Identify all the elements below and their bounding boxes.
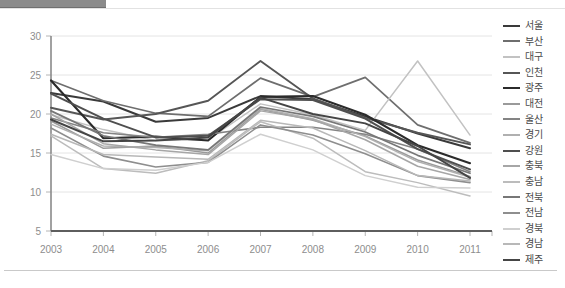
legend-item-label: 대전 — [525, 96, 543, 112]
legend-swatch-icon — [503, 25, 520, 27]
legend-swatch-icon — [503, 150, 520, 152]
legend-item-제주[interactable]: 제주 — [503, 252, 563, 268]
legend-item-label: 인천 — [525, 65, 543, 81]
legend-item-label: 경기 — [525, 127, 543, 143]
legend-item-대전[interactable]: 대전 — [503, 96, 563, 112]
legend-item-label: 충북 — [525, 158, 543, 174]
legend-item-label: 강원 — [525, 143, 543, 159]
x-axis-tick-labels: 200320042005200620072008200920102011 — [40, 231, 492, 255]
legend-swatch-icon — [503, 212, 520, 214]
series-line-대구 — [51, 61, 470, 141]
top-divider — [0, 8, 565, 9]
legend-item-충남[interactable]: 충남 — [503, 174, 563, 190]
legend-item-label: 서울 — [525, 18, 543, 34]
chart-page: 51015202530 2003200420052006200720082009… — [0, 0, 565, 288]
x-tick-label: 2009 — [354, 244, 377, 255]
legend-item-강원[interactable]: 강원 — [503, 143, 563, 159]
x-tick-label: 2008 — [302, 244, 325, 255]
y-axis-tick-labels: 51015202530 — [30, 31, 51, 237]
legend-swatch-icon — [503, 134, 520, 136]
y-tick-label: 5 — [35, 226, 41, 237]
legend-item-인천[interactable]: 인천 — [503, 65, 563, 81]
y-tick-label: 30 — [30, 31, 42, 42]
legend-item-label: 울산 — [525, 112, 543, 128]
legend-item-경북[interactable]: 경북 — [503, 221, 563, 237]
x-tick-label: 2007 — [249, 244, 272, 255]
legend-swatch-icon — [503, 165, 520, 167]
chart-canvas: 51015202530 2003200420052006200720082009… — [0, 10, 497, 260]
legend-swatch-icon — [503, 118, 520, 120]
legend-swatch-icon — [503, 40, 520, 42]
legend-item-label: 제주 — [525, 252, 543, 268]
legend-item-울산[interactable]: 울산 — [503, 112, 563, 128]
legend-item-대구[interactable]: 대구 — [503, 49, 563, 65]
y-tick-label: 25 — [30, 70, 42, 81]
y-tick-label: 20 — [30, 109, 42, 120]
legend-item-label: 경남 — [525, 236, 543, 252]
line-chart: 51015202530 2003200420052006200720082009… — [0, 10, 497, 260]
legend-swatch-icon — [503, 243, 520, 245]
legend-item-label: 대구 — [525, 49, 543, 65]
x-tick-label: 2011 — [459, 244, 481, 255]
legend-swatch-icon — [503, 228, 520, 230]
legend-item-경남[interactable]: 경남 — [503, 236, 563, 252]
legend-item-전남[interactable]: 전남 — [503, 205, 563, 221]
chart-legend: 서울부산대구인천광주대전울산경기강원충북충남전북전남경북경남제주 — [503, 18, 563, 270]
legend-item-서울[interactable]: 서울 — [503, 18, 563, 34]
legend-item-label: 전남 — [525, 205, 543, 221]
x-tick-label: 2005 — [145, 244, 168, 255]
legend-item-충북[interactable]: 충북 — [503, 158, 563, 174]
header-bar — [0, 0, 106, 8]
legend-swatch-icon — [503, 56, 520, 58]
x-tick-label: 2003 — [40, 244, 63, 255]
legend-item-광주[interactable]: 광주 — [503, 80, 563, 96]
series-lines — [51, 61, 470, 196]
legend-item-label: 광주 — [525, 80, 543, 96]
legend-item-label: 경북 — [525, 221, 543, 237]
legend-swatch-icon — [503, 103, 520, 105]
x-tick-label: 2010 — [407, 244, 430, 255]
x-tick-label: 2004 — [92, 244, 115, 255]
legend-item-전북[interactable]: 전북 — [503, 190, 563, 206]
y-tick-label: 15 — [30, 148, 42, 159]
legend-swatch-icon — [503, 259, 520, 261]
legend-swatch-icon — [503, 196, 520, 198]
legend-swatch-icon — [503, 181, 520, 183]
legend-item-label: 충남 — [525, 174, 543, 190]
legend-item-label: 부산 — [525, 34, 543, 50]
legend-swatch-icon — [503, 87, 520, 89]
legend-item-경기[interactable]: 경기 — [503, 127, 563, 143]
bottom-divider — [4, 270, 557, 271]
y-tick-label: 10 — [30, 187, 42, 198]
legend-item-부산[interactable]: 부산 — [503, 34, 563, 50]
x-tick-label: 2006 — [197, 244, 220, 255]
legend-swatch-icon — [503, 72, 520, 74]
legend-item-label: 전북 — [525, 190, 543, 206]
